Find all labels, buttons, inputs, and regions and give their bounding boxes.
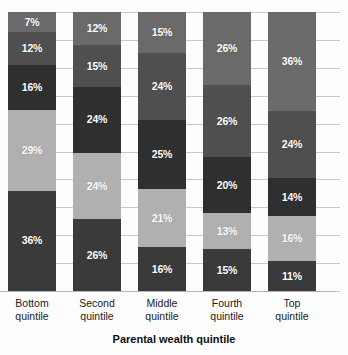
bar-segment[interactable]: 25% — [138, 120, 186, 189]
x-axis-tick-label: Fourthquintile — [203, 297, 251, 323]
bar-group[interactable]: 36%24%14%16%11% — [268, 12, 316, 291]
bar-segment[interactable]: 15% — [138, 12, 186, 53]
bar-segment[interactable]: 11% — [268, 261, 316, 291]
bar-segment[interactable]: 12% — [73, 12, 121, 45]
bar-group[interactable]: 12%15%24%24%26% — [73, 12, 121, 291]
x-axis-tick-label-line: quintile — [203, 310, 251, 323]
bar-segment-value-label: 12% — [87, 23, 108, 34]
bar-segment-value-label: 16% — [22, 82, 43, 93]
bar-segment-value-label: 16% — [282, 233, 303, 244]
bar-segment[interactable]: 36% — [8, 191, 56, 291]
bar-segment[interactable]: 24% — [73, 153, 121, 219]
bar-segment-value-label: 26% — [87, 250, 108, 261]
bar-segment-value-label: 36% — [22, 235, 43, 246]
bars-layer: 7%12%16%29%36%12%15%24%24%26%15%24%25%21… — [8, 12, 340, 291]
bar-segment-value-label: 12% — [22, 43, 43, 54]
bar-segment-value-label: 15% — [152, 27, 173, 38]
bar-segment[interactable]: 13% — [203, 213, 251, 249]
bar-segment[interactable]: 15% — [73, 45, 121, 86]
x-axis-line — [0, 291, 336, 292]
bar-segment[interactable]: 36% — [268, 12, 316, 111]
bar-segment-value-label: 16% — [152, 264, 173, 275]
bar-segment-value-label: 15% — [217, 265, 238, 276]
bar-segment-value-label: 26% — [217, 116, 238, 127]
x-axis-title: Parental wealth quintile — [0, 333, 348, 345]
stacked-bar-chart: 7%12%16%29%36%12%15%24%24%26%15%24%25%21… — [0, 0, 348, 355]
x-axis-tick-label-line: quintile — [138, 310, 186, 323]
bar-segment[interactable]: 20% — [203, 157, 251, 213]
x-axis-tick-label: Secondquintile — [73, 297, 121, 323]
bar-segment[interactable]: 21% — [138, 189, 186, 247]
bar-segment[interactable]: 7% — [8, 12, 56, 32]
x-axis-tick-label: Bottomquintile — [8, 297, 56, 323]
bar-segment-value-label: 21% — [152, 213, 173, 224]
bar-segment-value-label: 25% — [152, 149, 173, 160]
x-axis-tick-label-line: Bottom — [8, 297, 56, 310]
bar-segment[interactable]: 12% — [8, 32, 56, 65]
bar-segment[interactable]: 14% — [268, 178, 316, 217]
bar-segment-value-label: 36% — [282, 56, 303, 67]
bar-segment[interactable]: 16% — [8, 65, 56, 110]
bar-segment-value-label: 13% — [217, 226, 238, 237]
bar-segment-value-label: 24% — [87, 181, 108, 192]
bar-segment-value-label: 24% — [152, 81, 173, 92]
bar-group[interactable]: 15%24%25%21%16% — [138, 12, 186, 291]
bar-segment-value-label: 20% — [217, 180, 238, 191]
x-axis-tick-label: Topquintile — [268, 297, 316, 323]
bar-segment-value-label: 24% — [282, 139, 303, 150]
bar-segment-value-label: 11% — [282, 271, 302, 282]
x-axis-tick-label-line: Fourth — [203, 297, 251, 310]
bar-group[interactable]: 26%26%20%13%15% — [203, 12, 251, 291]
bar-segment[interactable]: 26% — [203, 12, 251, 85]
bar-segment[interactable]: 16% — [268, 216, 316, 260]
bar-segment[interactable]: 24% — [138, 53, 186, 119]
bar-segment-value-label: 15% — [87, 61, 108, 72]
bar-segment[interactable]: 29% — [8, 110, 56, 191]
x-axis-tick-label-line: quintile — [73, 310, 121, 323]
x-axis-tick-label-line: Top — [268, 297, 316, 310]
bar-segment[interactable]: 26% — [203, 85, 251, 158]
bar-segment[interactable]: 15% — [203, 249, 251, 291]
bar-group[interactable]: 7%12%16%29%36% — [8, 12, 56, 291]
x-axis-tick-label-line: quintile — [8, 310, 56, 323]
bar-segment[interactable]: 24% — [73, 87, 121, 153]
bar-segment-value-label: 14% — [282, 192, 303, 203]
bar-segment-value-label: 29% — [22, 145, 43, 156]
bar-segment-value-label: 24% — [87, 114, 108, 125]
x-axis-tick-label-line: quintile — [268, 310, 316, 323]
bar-segment[interactable]: 16% — [138, 247, 186, 291]
bar-segment-value-label: 26% — [217, 43, 238, 54]
bar-segment[interactable]: 24% — [268, 111, 316, 177]
bar-segment[interactable]: 26% — [73, 219, 121, 291]
x-axis-tick-labels: BottomquintileSecondquintileMiddlequinti… — [8, 297, 340, 323]
x-axis-tick-label-line: Middle — [138, 297, 186, 310]
x-axis-tick-label-line: Second — [73, 297, 121, 310]
bar-segment-value-label: 7% — [25, 17, 40, 28]
x-axis-tick-label: Middlequintile — [138, 297, 186, 323]
